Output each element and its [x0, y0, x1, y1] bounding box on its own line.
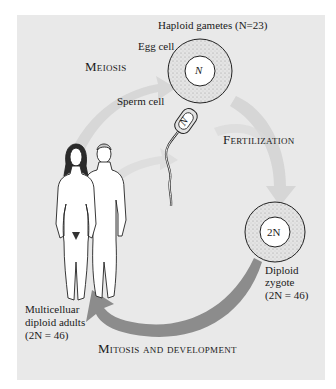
female-figure-icon — [56, 144, 96, 300]
sperm-cell-label: Sperm cell — [117, 95, 164, 108]
haploid-gametes-title: Haploid gametes (N=23) — [158, 19, 267, 32]
adults-label-line1: Multicelluar — [25, 303, 79, 316]
mitosis-development-label: Mitosis and development — [98, 342, 237, 355]
egg-cell-label: Egg cell — [138, 40, 174, 53]
adults-label-line2: diploid adults — [25, 316, 85, 329]
meiosis-label: Meiosis — [85, 60, 127, 73]
fertilization-arrow-icon — [214, 96, 296, 206]
fertilization-label: Fertilization — [223, 133, 295, 146]
egg-nucleus-label: N — [195, 64, 202, 77]
zygote-nucleus-label: 2N — [267, 226, 280, 239]
adults-label-line3: (2N = 46) — [25, 329, 68, 342]
zygote-label-line3: (2N = 46) — [265, 289, 308, 302]
diploid-adults-icon — [56, 144, 126, 300]
zygote-label-line2: zygote — [265, 276, 294, 289]
